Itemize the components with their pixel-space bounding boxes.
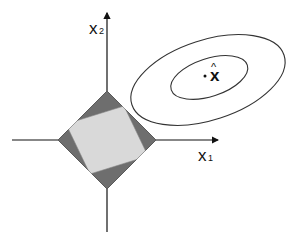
constraint-diamond [58,91,156,189]
regularization-diagram: ^ x x 2 x 1 [0,0,298,237]
constraint-light-band [66,106,148,174]
x2-axis-subscript: 2 [99,26,104,36]
estimate-label: x [210,66,220,85]
x1-axis-subscript: 1 [208,153,213,163]
outer-contour [120,17,297,143]
estimate-dot [204,75,207,78]
x1-axis-label: x [198,146,207,165]
x2-axis-label: x [89,19,98,38]
loss-contours [120,17,297,143]
